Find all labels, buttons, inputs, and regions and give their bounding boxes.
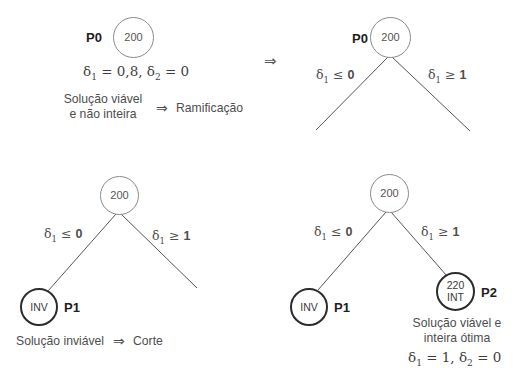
relation-symbol: ≥	[169, 228, 179, 243]
edge-value: 1	[183, 229, 190, 243]
delta-symbol: δ	[152, 228, 160, 243]
relation-symbol: ≥	[438, 224, 448, 239]
caption-initial-result: Ramificação	[176, 101, 243, 116]
delta-sub-1: 1	[416, 358, 422, 368]
edge-bottom-right-right	[391, 212, 447, 276]
edge-label-bottom-right-right: δ1 ≥ 1	[421, 224, 459, 242]
node-root-bottom-right-value: 200	[380, 188, 398, 199]
node-label-p1-bottom-right: P1	[334, 300, 350, 315]
caption-initial-condition: Solução viável e não inteira	[48, 92, 158, 122]
caption-infeasible-result: Corte	[133, 334, 163, 349]
caption-initial-line1: Solução viável	[48, 92, 158, 107]
caption-optimal: Solução viável e inteira ótima	[392, 316, 522, 346]
delta-symbol-2: δ	[147, 63, 155, 79]
delta-symbol: δ	[428, 67, 436, 82]
delta-sub: 1	[160, 236, 165, 246]
equation-optimal-part2: = 0	[477, 349, 501, 365]
delta-symbol-1: δ	[408, 349, 416, 365]
node-label-p0-branched: P0	[352, 31, 368, 46]
node-p1-infeasible-bottom-right: INV	[290, 288, 328, 326]
edge-value: 0	[345, 225, 352, 239]
edge-label-top-right-left: δ1 ≤ 0	[316, 67, 354, 85]
caption-optimal-line2: inteira ótima	[392, 331, 522, 346]
transition-arrow: ⇒	[264, 52, 277, 70]
relation-symbol: ≤	[61, 226, 71, 241]
edge-bottom-left-right	[121, 214, 197, 288]
diagram-canvas: P0 200 δ1 = 0,8, δ2 = 0 Solução viável e…	[0, 0, 526, 377]
edge-value: 0	[75, 227, 82, 241]
edge-value: 1	[459, 68, 466, 82]
node-p2-integer-optimal: 220 INT	[436, 272, 475, 311]
delta-symbol: δ	[421, 224, 429, 239]
node-root-bottom-left: 200	[100, 176, 139, 215]
edge-value: 1	[452, 225, 459, 239]
relation-symbol: ≤	[333, 67, 343, 82]
node-label-p1-bottom-left: P1	[64, 300, 80, 315]
equation-initial: δ1 = 0,8, δ2 = 0	[83, 63, 189, 82]
node-p0-branched-value: 200	[381, 32, 399, 43]
caption-initial-line2: e não inteira	[48, 107, 158, 122]
delta-sub: 1	[429, 232, 434, 242]
edge-label-bottom-left-left: δ1 ≤ 0	[44, 226, 82, 244]
equation-initial-part2: = 0	[165, 63, 189, 79]
node-label-p2: P2	[481, 285, 497, 300]
equation-optimal: δ1 = 1, δ2 = 0	[408, 349, 501, 368]
edge-value: 0	[347, 68, 354, 82]
delta-sub: 1	[52, 234, 57, 244]
relation-symbol: ≤	[331, 224, 341, 239]
edge-label-top-right-right: δ1 ≥ 1	[428, 67, 466, 85]
delta-sub: 1	[322, 232, 327, 242]
implies-arrow-infeasible: ⇒	[113, 333, 125, 349]
delta-symbol-1: δ	[83, 63, 91, 79]
edge-label-bottom-right-left: δ1 ≤ 0	[314, 224, 352, 242]
delta-symbol: δ	[314, 224, 322, 239]
caption-optimal-line1: Solução viável e	[392, 316, 522, 331]
node-p1-infeasible-bottom-left: INV	[20, 288, 58, 326]
node-p2-value-top: 220	[447, 280, 465, 291]
node-p0-initial: 200	[113, 17, 154, 58]
delta-symbol: δ	[44, 226, 52, 241]
equation-optimal-part1: = 1,	[426, 349, 454, 365]
delta-sub-2: 2	[155, 72, 161, 82]
delta-sub: 1	[324, 75, 329, 85]
implies-arrow-initial: ⇒	[156, 100, 168, 116]
node-p1-infeasible-value: INV	[300, 302, 318, 313]
node-p0-branched: 200	[370, 17, 411, 58]
relation-symbol: ≥	[445, 67, 455, 82]
delta-sub-2: 2	[467, 358, 473, 368]
node-root-bottom-right: 200	[370, 174, 409, 213]
node-label-p0-initial: P0	[86, 30, 102, 45]
equation-initial-part1: = 0,8,	[101, 63, 142, 79]
delta-symbol-2: δ	[459, 349, 467, 365]
caption-infeasible: Solução inviável	[16, 334, 104, 349]
node-p2-value-bottom: INT	[447, 292, 464, 303]
delta-sub-1: 1	[91, 72, 97, 82]
delta-symbol: δ	[316, 67, 324, 82]
edge-label-bottom-left-right: δ1 ≥ 1	[152, 228, 190, 246]
node-root-bottom-left-value: 200	[110, 190, 128, 201]
node-p1-infeasible-value: INV	[30, 302, 48, 313]
node-p0-initial-value: 200	[124, 32, 142, 43]
delta-sub: 1	[436, 75, 441, 85]
